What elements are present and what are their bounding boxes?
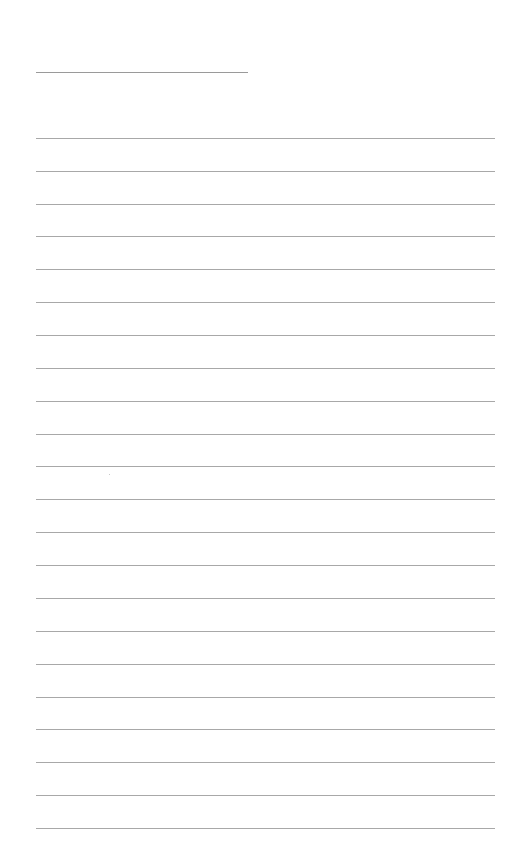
- ruled-line: [36, 138, 495, 139]
- paper-speck: [109, 474, 110, 475]
- ruled-line: [36, 598, 495, 599]
- ruled-line: [36, 565, 495, 566]
- ruled-line: [36, 269, 495, 270]
- ruled-line: [36, 664, 495, 665]
- ruled-line: [36, 401, 495, 402]
- ruled-line: [36, 368, 495, 369]
- ruled-line: [36, 302, 495, 303]
- ruled-line: [36, 434, 495, 435]
- ruled-line: [36, 828, 495, 829]
- ruled-line: [36, 697, 495, 698]
- ruled-line: [36, 335, 495, 336]
- header-title-line: [36, 72, 248, 73]
- ruled-line: [36, 236, 495, 237]
- ruled-line: [36, 532, 495, 533]
- ruled-line: [36, 795, 495, 796]
- ruled-line: [36, 204, 495, 205]
- lined-paper-page: [0, 0, 519, 863]
- ruled-line: [36, 631, 495, 632]
- ruled-line: [36, 729, 495, 730]
- ruled-line: [36, 499, 495, 500]
- ruled-line: [36, 762, 495, 763]
- ruled-line: [36, 171, 495, 172]
- ruled-line: [36, 466, 495, 467]
